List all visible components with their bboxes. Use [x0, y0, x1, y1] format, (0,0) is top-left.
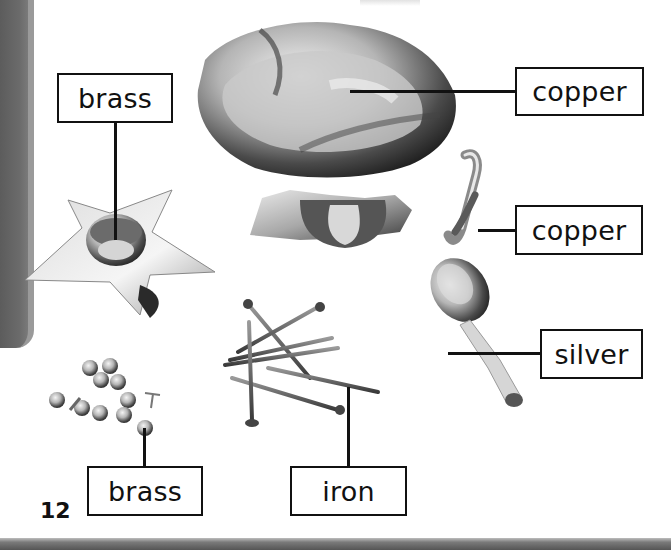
connector-silver-spoon — [448, 352, 541, 355]
label-iron-nails: iron — [290, 466, 407, 516]
connector-copper-coil — [478, 229, 516, 232]
label-copper-coil: copper — [515, 205, 643, 255]
connector-brass-star — [114, 122, 117, 240]
page-number: 12 — [40, 498, 71, 523]
brass-pins-image — [49, 358, 160, 436]
brass-star-holder-image — [25, 190, 215, 318]
label-silver-spoon: silver — [540, 329, 643, 379]
label-brass-pins: brass — [87, 466, 203, 516]
silver-spoon-image — [418, 247, 523, 407]
copper-coil-image — [448, 154, 477, 241]
label-brass-star: brass — [57, 73, 173, 123]
iron-nails-image — [225, 299, 378, 427]
connector-iron-nails — [347, 387, 350, 467]
page-bottom-band — [0, 538, 671, 550]
label-copper-bowl: copper — [515, 67, 644, 116]
copper-bowl-image — [198, 22, 456, 248]
connector-brass-pins — [143, 428, 146, 467]
connector-copper-bowl — [350, 90, 516, 93]
